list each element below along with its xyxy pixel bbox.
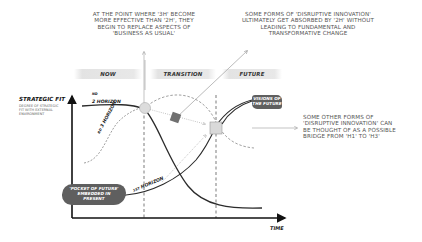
horizon-2-sup: ND [92,92,98,96]
curve-horizon-1 [126,100,252,195]
diagram-drawing [0,0,422,242]
dotted-arrow-h1-to-square [162,135,206,182]
callout-pocket-of-future: 'POCKET OF FUTURE' EMBEDDED IN PRESENT [62,184,126,205]
node-crossover [140,103,151,114]
callout-visions-of-future: VISIONS OF THE FUTURE [252,95,282,109]
square-disruptive-absorbed [170,112,182,124]
square-bridge [210,122,222,134]
curve-disruptive-absorbed [147,95,254,148]
callout-line: THE FUTURE [252,102,281,107]
connector-visions [222,101,252,124]
curve-horizon-3 [84,107,145,163]
callout-line: PRESENT [69,197,118,202]
x-axis-label: TIME [270,225,284,231]
three-horizons-diagram: AT THE POINT WHERE '3H' BECOME MORE EFFE… [0,0,422,242]
